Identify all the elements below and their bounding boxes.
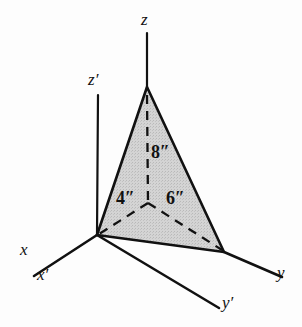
- axis-label-z-prime: z′: [88, 71, 98, 88]
- figure-container: z z′ x x′ y y′ 8″ 4″ 6″: [0, 0, 302, 327]
- axis-label-x: x: [20, 241, 28, 258]
- axis-label-z: z: [141, 11, 148, 28]
- axis-label-y-prime-text: y: [222, 293, 230, 312]
- axis-label-x-prime: x′: [37, 266, 48, 283]
- prime-mark-x: ′: [45, 265, 49, 284]
- axis-label-y-prime: y′: [222, 294, 233, 311]
- dimension-label-height: 8″: [151, 143, 169, 161]
- shaded-triangle-plane: [97, 87, 224, 252]
- dimension-label-x-intercept: 4″: [116, 189, 134, 207]
- prime-mark-y: ′: [230, 293, 234, 312]
- axis-label-z-prime-text: z: [88, 70, 95, 89]
- dimension-label-y-intercept: 6″: [166, 189, 184, 207]
- axis-label-y: y: [277, 264, 285, 281]
- y-axis-line: [224, 252, 282, 277]
- axis-label-x-prime-text: x: [37, 265, 45, 284]
- prime-mark-z: ′: [95, 70, 99, 89]
- z-prime-axis-line: [97, 95, 98, 235]
